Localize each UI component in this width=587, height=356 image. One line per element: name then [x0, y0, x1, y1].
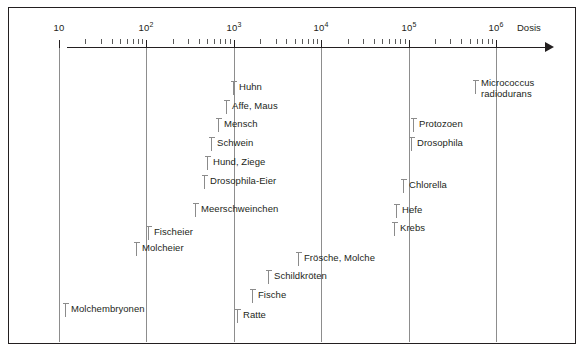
entry-label-huhn: Huhn — [239, 82, 262, 93]
entry-label-froesche-molche: Frösche, Molche — [304, 253, 375, 264]
axis-title-dosis: Dosis — [517, 22, 541, 33]
minor-tick-1-4 — [199, 39, 200, 44]
marker-icon — [403, 179, 404, 193]
minor-tick-1-7 — [220, 39, 221, 44]
axis-label-0: 10 — [54, 22, 65, 33]
entry-label-molchembryonen: Molchembryonen — [71, 304, 145, 315]
major-tick-1 — [146, 40, 147, 48]
gridline-decade-4 — [409, 48, 410, 342]
axis-label-4: 105 — [402, 22, 417, 33]
minor-tick-2-7 — [308, 39, 309, 44]
marker-icon — [204, 175, 205, 189]
entry-label-schwein: Schwein — [217, 138, 253, 149]
entry-label-fischeier: Fischeier — [154, 227, 193, 238]
minor-tick-0-6 — [127, 39, 128, 44]
minor-tick-4-8 — [488, 39, 489, 44]
minor-tick-2-3 — [276, 39, 277, 44]
entry-label-line2: radiodurans — [481, 89, 534, 100]
minor-tick-2-5 — [295, 39, 296, 44]
marker-icon — [413, 118, 414, 132]
marker-icon — [475, 80, 476, 94]
marker-icon — [211, 137, 212, 151]
minor-tick-4-4 — [461, 39, 462, 44]
entry-label-hund-ziege: Hund, Ziege — [213, 157, 265, 168]
marker-icon — [268, 270, 269, 284]
radiation-dose-figure: 10102103104105106 Dosis HuhnAffe, MausMe… — [0, 0, 587, 356]
major-tick-3 — [321, 40, 322, 48]
minor-tick-4-5 — [470, 39, 471, 44]
minor-tick-2-2 — [260, 39, 261, 44]
marker-icon — [195, 203, 196, 217]
x-axis-line — [67, 47, 547, 48]
minor-tick-4-3 — [450, 39, 451, 44]
entry-label-molcheier: Molcheier — [142, 243, 184, 254]
minor-tick-3-6 — [389, 39, 390, 44]
marker-icon — [252, 289, 253, 303]
axis-label-5: 106 — [489, 22, 504, 33]
minor-tick-0-7 — [133, 39, 134, 44]
minor-tick-1-8 — [225, 39, 226, 44]
minor-tick-2-9 — [317, 39, 318, 44]
minor-tick-4-9 — [492, 39, 493, 44]
marker-icon — [148, 226, 149, 240]
entry-label-meerschweinchen: Meerschweinchen — [201, 204, 278, 215]
major-tick-4 — [409, 40, 410, 48]
gridline-decade-0 — [59, 48, 60, 342]
minor-tick-3-7 — [395, 39, 396, 44]
figure-frame: 10102103104105106 Dosis HuhnAffe, MausMe… — [8, 7, 576, 344]
entry-label-fische: Fische — [258, 290, 286, 301]
major-tick-0 — [59, 40, 60, 48]
marker-icon — [136, 242, 137, 256]
entry-label-mensch: Mensch — [224, 119, 258, 130]
marker-icon — [411, 137, 412, 151]
minor-tick-4-6 — [477, 39, 478, 44]
minor-tick-2-6 — [302, 39, 303, 44]
minor-tick-0-3 — [101, 39, 102, 44]
minor-tick-3-4 — [374, 39, 375, 44]
minor-tick-2-4 — [286, 39, 287, 44]
marker-icon — [233, 81, 234, 95]
minor-tick-0-5 — [120, 39, 121, 44]
minor-tick-0-2 — [85, 39, 86, 44]
gridline-decade-2 — [234, 48, 235, 342]
minor-tick-1-6 — [214, 39, 215, 44]
entry-label-drosophila-eier: Drosophila-Eier — [210, 176, 276, 187]
minor-tick-4-7 — [482, 39, 483, 44]
entry-label-micrococcus-radiodurans: Micrococcusradiodurans — [481, 78, 534, 99]
minor-tick-1-9 — [230, 39, 231, 44]
minor-tick-3-5 — [382, 39, 383, 44]
axis-label-1: 102 — [139, 22, 154, 33]
axis-label-2: 103 — [227, 22, 242, 33]
entry-label-protozoen: Protozoen — [419, 119, 463, 130]
entry-label-drosophila: Drosophila — [417, 138, 463, 149]
marker-icon — [237, 309, 238, 323]
minor-tick-2-8 — [313, 39, 314, 44]
marker-icon — [298, 252, 299, 266]
minor-tick-1-5 — [207, 39, 208, 44]
entry-label-krebs: Krebs — [400, 223, 425, 234]
gridline-decade-1 — [146, 48, 147, 342]
minor-tick-1-2 — [173, 39, 174, 44]
marker-icon — [394, 222, 395, 236]
entry-label-schildkroeten: Schildkröten — [274, 271, 327, 282]
minor-tick-3-8 — [400, 39, 401, 44]
minor-tick-0-4 — [112, 39, 113, 44]
marker-icon — [396, 204, 397, 218]
minor-tick-1-3 — [188, 39, 189, 44]
gridline-decade-3 — [321, 48, 322, 342]
minor-tick-3-3 — [363, 39, 364, 44]
entry-label-hefe: Hefe — [402, 205, 422, 216]
entry-label-chlorella: Chlorella — [409, 180, 447, 191]
marker-icon — [218, 118, 219, 132]
entry-label-ratte: Ratte — [243, 310, 266, 321]
major-tick-5 — [496, 40, 497, 48]
minor-tick-3-2 — [348, 39, 349, 44]
marker-icon — [65, 303, 66, 317]
x-axis-arrowhead — [545, 42, 554, 52]
entry-label-affe-maus: Affe, Maus — [232, 101, 278, 112]
minor-tick-3-9 — [405, 39, 406, 44]
minor-tick-0-8 — [138, 39, 139, 44]
major-tick-2 — [234, 40, 235, 48]
marker-icon — [207, 156, 208, 170]
axis-label-3: 104 — [314, 22, 329, 33]
